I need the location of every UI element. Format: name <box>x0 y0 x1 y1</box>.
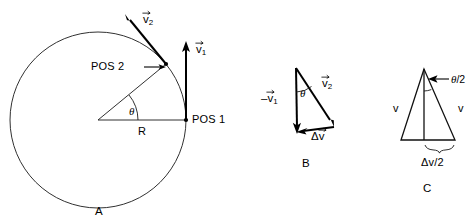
panel-a-letter: A <box>95 206 103 218</box>
theta-label-b: θ <box>300 87 305 99</box>
figure-svg <box>0 0 476 222</box>
half-angle-denominator: /2 <box>456 73 465 85</box>
delta-v-label-prefix: Δ <box>311 130 319 142</box>
base-brace <box>425 145 454 153</box>
theta-label-a: θ <box>129 105 134 117</box>
v2b-label-subscript: 2 <box>328 82 332 91</box>
v2-label: v 2 <box>143 14 153 27</box>
panel-b-letter: B <box>302 158 310 170</box>
v1-label-base: v <box>196 43 202 55</box>
half-angle-label: θ/2 <box>451 73 465 85</box>
delta-v-label: Δ v <box>311 131 324 143</box>
minus-v1-label: – v 1 <box>261 93 278 106</box>
panel-c-letter: C <box>423 183 432 195</box>
minus-v1-vector-shaft <box>296 68 297 127</box>
pos1-label: POS 1 <box>192 114 225 125</box>
v2b-label: v 2 <box>322 78 332 91</box>
v2b-arrowhead <box>329 116 334 127</box>
v1-label: v 1 <box>196 44 206 57</box>
v2-label-subscript: 2 <box>149 18 153 27</box>
minus-v1-label-subscript: 1 <box>273 97 277 106</box>
v2-label-base: v <box>143 13 149 25</box>
panel-a-graphics <box>10 14 190 208</box>
minus-v1-label-base: v <box>267 92 273 104</box>
radius-label: R <box>138 126 146 137</box>
v1-label-subscript: 1 <box>202 48 206 57</box>
v-left-label: v <box>393 103 399 114</box>
figure-canvas: POS 1 POS 2 R θ v 1 v 2 A – v 1 <box>0 0 476 222</box>
v-right-label: v <box>458 103 464 114</box>
delta-v-half-label: Δv/2 <box>421 157 444 168</box>
delta-v-label-base: v <box>319 130 325 142</box>
v2b-label-base: v <box>322 77 328 89</box>
half-angle-arc <box>424 90 431 91</box>
pos2-label: POS 2 <box>91 61 124 72</box>
panel-c-graphics <box>401 69 455 153</box>
isosceles-triangle <box>401 69 455 140</box>
